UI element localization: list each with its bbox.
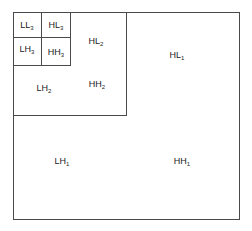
divider-level-3-horizontal bbox=[13, 37, 71, 38]
subband-label-hl3: HL3 bbox=[49, 20, 64, 30]
divider-level-2-vertical bbox=[70, 12, 71, 66]
subband-label-lh3: LH3 bbox=[20, 44, 35, 54]
wavelet-decomposition-diagram: LL3 HL3 LH3 HH3 HL2 LH2 HH2 HL1 LH1 HH1 bbox=[0, 0, 252, 231]
subband-label-ll3: LL3 bbox=[20, 20, 33, 30]
subband-label-lh1: LH1 bbox=[55, 156, 70, 166]
subband-label-lh2: LH2 bbox=[37, 83, 52, 93]
subband-label-hl2: HL2 bbox=[89, 36, 104, 46]
subband-label-hl1: HL1 bbox=[170, 50, 185, 60]
subband-label-hh3: HH3 bbox=[48, 47, 64, 57]
subband-label-hh2: HH2 bbox=[89, 79, 105, 89]
divider-level-3-vertical bbox=[41, 12, 42, 66]
subband-label-hh1: HH1 bbox=[174, 156, 190, 166]
